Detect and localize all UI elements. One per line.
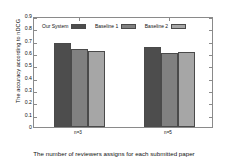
y-tick-mark	[209, 117, 212, 118]
y-tick-mark	[209, 104, 212, 105]
bar-group	[54, 43, 105, 127]
x-tick-label: n=5	[148, 131, 188, 136]
y-tick-mark	[34, 18, 37, 19]
y-tick-mark	[34, 43, 37, 44]
legend-item[interactable]: Our System	[42, 24, 86, 29]
y-tick-mark	[209, 43, 212, 44]
legend-label: Baseline 2	[145, 24, 168, 29]
legend-item[interactable]: Baseline 2	[145, 24, 186, 29]
plot-area: Our SystemBaseline 1Baseline 2	[33, 17, 213, 128]
y-tick-mark	[34, 67, 37, 68]
bar[interactable]	[178, 52, 195, 127]
y-tick-mark	[34, 30, 37, 31]
bar[interactable]	[71, 49, 88, 127]
y-tick-mark	[209, 55, 212, 56]
bar-chart-figure: The accuracy according to nDCG 00.10.20.…	[0, 0, 228, 164]
y-tick-mark	[34, 117, 37, 118]
y-tick-label: 0.2	[18, 101, 32, 106]
y-tick-mark	[34, 104, 37, 105]
bar[interactable]	[161, 53, 178, 127]
x-axis-title: The number of reviewers assigns for each…	[0, 150, 228, 157]
y-tick-mark	[209, 80, 212, 81]
bar[interactable]	[88, 51, 105, 127]
y-tick-label: 0.3	[18, 88, 32, 93]
legend-swatch	[121, 24, 136, 29]
chart-legend: Our SystemBaseline 1Baseline 2	[39, 21, 189, 32]
y-tick-mark	[209, 67, 212, 68]
y-tick-label: 0.6	[18, 51, 32, 56]
legend-swatch	[71, 24, 86, 29]
bar[interactable]	[144, 47, 161, 127]
y-tick-mark	[209, 30, 212, 31]
y-tick-label: 0.5	[18, 64, 32, 69]
y-tick-mark	[34, 80, 37, 81]
y-tick-mark	[209, 92, 212, 93]
y-axis-tick-labels: 00.10.20.30.40.50.60.70.80.9	[18, 17, 32, 128]
y-tick-mark	[34, 92, 37, 93]
y-tick-label: 0.4	[18, 76, 32, 81]
y-tick-label: 0.9	[18, 14, 32, 19]
legend-label: Our System	[42, 24, 68, 29]
x-tick-label: n=3	[58, 131, 98, 136]
y-tick-mark	[209, 18, 212, 19]
bar[interactable]	[54, 43, 71, 127]
y-tick-label: 0.8	[18, 27, 32, 32]
legend-swatch	[171, 24, 186, 29]
y-tick-label: 0	[18, 125, 32, 130]
y-tick-label: 0.1	[18, 113, 32, 118]
legend-label: Baseline 1	[95, 24, 118, 29]
legend-item[interactable]: Baseline 1	[95, 24, 136, 29]
y-tick-mark	[34, 55, 37, 56]
bar-group	[144, 47, 195, 127]
y-tick-label: 0.7	[18, 39, 32, 44]
